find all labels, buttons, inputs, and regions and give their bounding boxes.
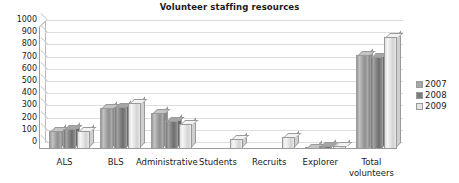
gridline-100	[45, 130, 403, 131]
y-axis-label-200: 200	[3, 114, 37, 122]
y-axis-label-700: 700	[3, 53, 37, 61]
legend-item-2007[interactable]: 2007	[416, 79, 459, 90]
y-axis-label-1000: 1000	[3, 16, 37, 24]
x-axis-line	[39, 148, 397, 149]
gridline-0	[45, 142, 403, 143]
legend-label-2009: 2009	[425, 102, 447, 111]
plot-area	[39, 21, 403, 155]
y-axis-label-500: 500	[3, 77, 37, 85]
y-axis-label-900: 900	[3, 28, 37, 36]
legend-item-2009[interactable]: 2009	[416, 101, 459, 112]
legend-item-2008[interactable]: 2008	[416, 90, 459, 101]
legend-label-2008: 2008	[425, 91, 447, 100]
y-axis-label-800: 800	[3, 40, 37, 48]
gridline-1000	[45, 20, 403, 21]
gridline-300	[45, 105, 403, 106]
chart-title: Volunteer staffing resources	[0, 2, 459, 12]
y-axis-line	[39, 27, 40, 149]
y-axis-label-600: 600	[3, 65, 37, 73]
legend-swatch-2008	[416, 92, 423, 99]
legend-swatch-2007	[416, 81, 423, 88]
y-axis-label-300: 300	[3, 101, 37, 109]
gridline-600	[45, 69, 403, 70]
x-axis-label-total-volunteers: Total volunteers	[338, 157, 405, 178]
chart-legend: 200720082009	[416, 79, 459, 112]
gridline-800	[45, 44, 403, 45]
legend-swatch-2009	[416, 103, 423, 110]
y-axis-label-0: 0	[3, 138, 37, 146]
gridline-700	[45, 57, 403, 58]
gridline-500	[45, 81, 403, 82]
gridline-900	[45, 32, 403, 33]
gridline-400	[45, 93, 403, 94]
y-tick-1000	[41, 13, 49, 21]
gridline-200	[45, 118, 403, 119]
bar-chart: Volunteer staffing resources 10009008007…	[0, 0, 459, 183]
y-axis-label-100: 100	[3, 126, 37, 134]
legend-label-2007: 2007	[425, 80, 447, 89]
y-axis-label-400: 400	[3, 89, 37, 97]
